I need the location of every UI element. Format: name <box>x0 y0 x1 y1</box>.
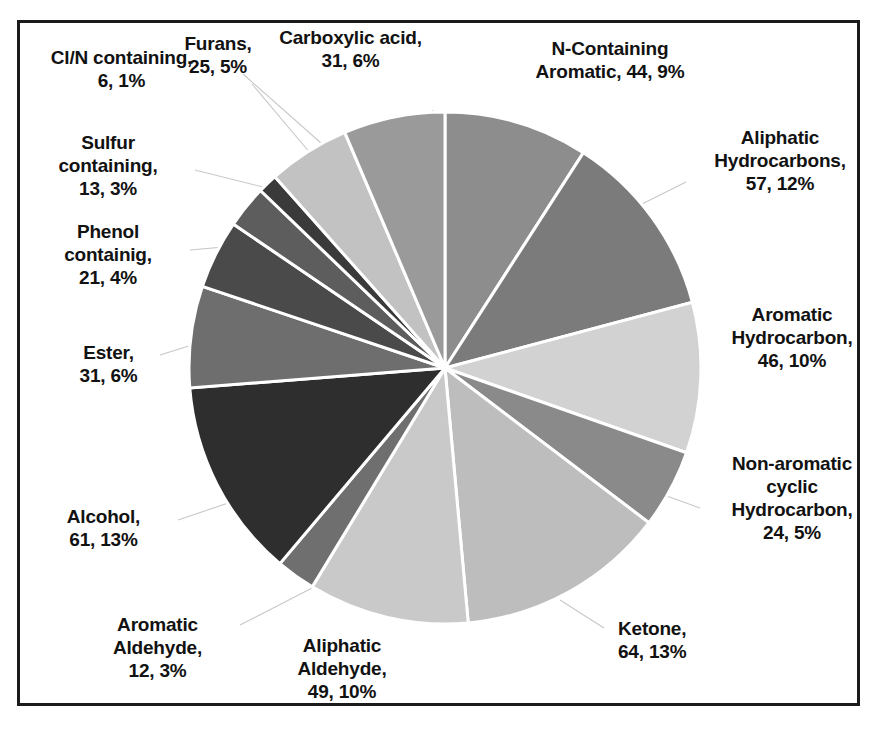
pie-slices <box>189 112 701 624</box>
slice-label-aromatic-hydrocarbon: Aromatic Hydrocarbon, 46, 10% <box>706 303 878 372</box>
slice-label-aliphatic-hydrocarbons: Aliphatic Hydrocarbons, 57, 12% <box>690 126 870 195</box>
slice-label-sulfur-containing: Sulfur containing, 13, 3% <box>28 131 188 200</box>
leader-line-aromatic-aldehyde <box>240 585 318 625</box>
slice-label-phenol-containing: Phenol containig, 21, 4% <box>28 220 188 289</box>
slice-label-carboxylic-acid: Carboxylic acid, 31, 6% <box>258 26 443 72</box>
slice-label-non-aromatic-cyclic-hydrocarbon: Non-aromatic cyclic Hydrocarbon, 24, 5% <box>706 452 878 544</box>
leader-line-ketone <box>560 600 604 628</box>
chart-figure: Cl/N containing, 6, 1% Furans, 25, 5% Ca… <box>0 0 886 734</box>
leader-line-cl-n <box>243 74 330 151</box>
slice-label-n-containing-aromatic: N-Containing Aromatic, 44, 9% <box>505 37 715 83</box>
slice-label-ketone: Ketone, 64, 13% <box>618 617 768 663</box>
leader-line-aliphatic-hydrocarbons <box>640 182 686 205</box>
slice-label-aromatic-aldehyde: Aromatic Aldehyde, 12, 3% <box>80 613 235 682</box>
slice-label-aliphatic-aldehyde: Aliphatic Aldehyde, 49, 10% <box>262 634 422 703</box>
slice-label-ester: Ester, 31, 6% <box>36 341 181 387</box>
slice-label-alcohol: Alcohol, 61, 13% <box>26 505 181 551</box>
